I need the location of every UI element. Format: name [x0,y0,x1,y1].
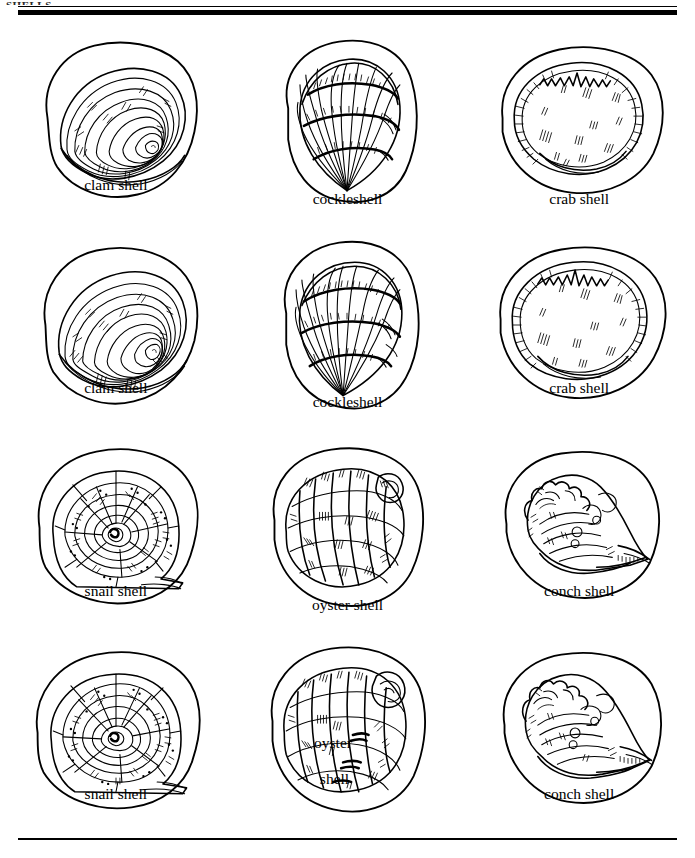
bottom-rule [18,838,677,840]
figure-cell-clam-shell-1[interactable]: clam shell [0,20,232,223]
illustration-oyster-shell [249,633,445,829]
figure-cell-snail-shell-2[interactable]: snail shell [0,629,232,832]
illustration-cockleshell [249,24,445,220]
figure-cell-conch-shell-1[interactable]: conch shell [463,426,695,629]
figure-cell-oyster-shell-2[interactable]: oyster shell [232,629,464,832]
figure-cell-conch-shell-2[interactable]: conch shell [463,629,695,832]
illustration-crab-shell [481,24,677,220]
figure-cell-crab-shell-2[interactable]: crab shell [463,223,695,426]
shell-figure-grid: clam shell [0,20,695,832]
illustration-clam-shell [18,227,214,423]
top-rule-thin [18,6,677,7]
illustration-snail-shell [18,633,214,829]
figure-cell-cockleshell-1[interactable]: cockleshell [232,20,464,223]
figure-cell-clam-shell-2[interactable]: clam shell [0,223,232,426]
figure-cell-snail-shell-1[interactable]: snail shell [0,426,232,629]
figure-cell-crab-shell-1[interactable]: crab shell [463,20,695,223]
figure-cell-cockleshell-2[interactable]: cockleshell [232,223,464,426]
illustration-oyster-shell [249,430,445,626]
illustration-conch-shell [481,633,677,829]
top-rule-thick [18,10,677,15]
illustration-conch-shell [481,430,677,626]
illustration-cockleshell [249,227,445,423]
worksheet-page: SHELLS [0,0,695,858]
illustration-snail-shell [18,430,214,626]
illustration-crab-shell [481,227,677,423]
figure-cell-oyster-shell-1[interactable]: oyster shell [232,426,464,629]
page-header-text: SHELLS [6,0,126,5]
illustration-clam-shell [18,24,214,220]
